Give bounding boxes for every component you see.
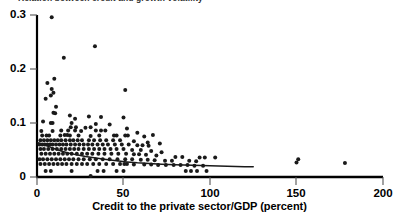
scatter-point [52, 77, 56, 81]
y-tick-label-0.3: 0.3 [0, 8, 26, 20]
scatter-point [45, 81, 49, 85]
scatter-point [70, 162, 74, 166]
scatter-point [68, 133, 72, 137]
scatter-point [47, 133, 51, 137]
scatter-point [40, 133, 44, 137]
scatter-point [66, 129, 70, 133]
scatter-point [132, 152, 136, 156]
scatter-point [71, 138, 75, 142]
scatter-point [111, 162, 115, 166]
scatter-point [194, 159, 198, 163]
chart-figure: Relation between credit and growth volat… [0, 0, 399, 224]
scatter-point [118, 138, 122, 142]
scatter-point [49, 93, 53, 97]
scatter-point [101, 143, 105, 147]
scatter-point [80, 162, 84, 166]
scatter-point [77, 157, 81, 161]
scatter-point [63, 157, 67, 161]
scatter-point [122, 169, 126, 173]
scatter-point [89, 174, 93, 178]
scatter-point [59, 129, 63, 133]
scatter-point [135, 143, 139, 147]
scatter-point [64, 162, 68, 166]
scatter-point [90, 152, 94, 156]
scatter-point [99, 129, 103, 133]
scatter-point [70, 169, 74, 173]
scatter-point [86, 143, 90, 147]
scatter-point [104, 138, 108, 142]
scatter-point [52, 152, 56, 156]
scatter-point [51, 162, 55, 166]
scatter-point [102, 169, 106, 173]
scatter-point [39, 152, 43, 156]
x-tick-label-0: 0 [23, 187, 51, 199]
scatter-point [109, 152, 113, 156]
scatter-point [50, 15, 54, 19]
scatter-point [151, 133, 155, 137]
scatter-point [139, 148, 143, 152]
scatter-point [64, 138, 68, 142]
scatter-point [108, 123, 112, 127]
scatter-point [38, 138, 42, 142]
scatter-point [69, 143, 73, 147]
scatter-point [64, 143, 68, 147]
scatter-point [44, 97, 48, 101]
scatter-point [68, 147, 72, 151]
scatter-point [53, 111, 57, 115]
y-tick-label-0: 0 [0, 170, 26, 182]
scatter-point [93, 44, 97, 48]
scatter-point [87, 115, 91, 119]
scatter-point [47, 162, 51, 166]
scatter-point [170, 159, 174, 163]
scatter-point [64, 147, 68, 151]
scatter-point [158, 142, 162, 146]
scatter-point [92, 147, 96, 151]
scatter-point [122, 147, 126, 151]
scatter-point [38, 147, 42, 151]
scatter-point [97, 162, 101, 166]
scatter-point [70, 121, 74, 125]
scatter-point [71, 157, 75, 161]
scatter-point [118, 162, 122, 166]
scatter-point [115, 133, 119, 137]
scatter-point [57, 143, 61, 147]
scatter-point [49, 138, 53, 142]
scatter-point [41, 157, 45, 161]
scatter-point [42, 138, 46, 142]
scatter-point [160, 150, 164, 154]
scatter-point [90, 143, 94, 147]
y-tick-label-0.1: 0.1 [0, 116, 26, 128]
scatter-point [57, 152, 61, 156]
scatter-point [213, 156, 217, 160]
scatter-point [146, 158, 150, 162]
scatter-point [82, 157, 86, 161]
scatter-point [141, 143, 145, 147]
scatter-point [113, 143, 117, 147]
scatter-point [205, 169, 209, 173]
x-tick-label-50: 50 [109, 187, 137, 199]
scatter-point [72, 147, 76, 151]
scatter-point [45, 138, 49, 142]
scatter-point [92, 138, 96, 142]
scatter-point [198, 156, 202, 160]
scatter-point [97, 133, 101, 137]
scatter-point [154, 153, 158, 157]
scatter-point [184, 169, 188, 173]
scatter-point [195, 169, 199, 173]
scatter-point [109, 147, 113, 151]
scatter-point [147, 144, 151, 148]
scatter-point [124, 152, 128, 156]
scatter-point [180, 155, 184, 159]
scatter-point [73, 143, 77, 147]
scatter-point [89, 134, 93, 138]
scatter-point [153, 158, 157, 162]
scatter-point [77, 147, 81, 151]
scatter-point [44, 169, 48, 173]
scatter-point [142, 135, 146, 139]
scatter-point [85, 152, 89, 156]
scatter-point [98, 138, 102, 142]
scatter-point [149, 149, 153, 153]
scatter-point [97, 147, 101, 151]
scatter-point [51, 129, 55, 133]
scatter-point [187, 159, 191, 163]
